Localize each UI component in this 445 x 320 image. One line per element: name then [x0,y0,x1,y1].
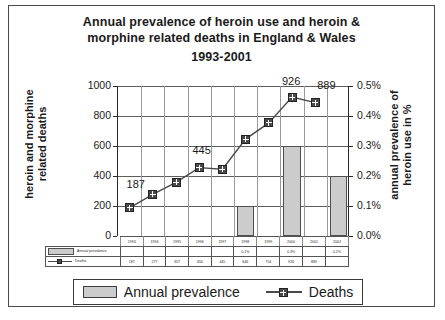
table-cell [257,247,280,257]
table-year-header: 1995 [166,237,189,247]
line-swatch-icon [48,259,72,264]
right-axis-tick-label: 0.1% [357,199,401,211]
line-marker [148,190,157,199]
right-axis-title-line-2: heroin use in % [401,104,413,185]
table-cell: 445 [211,257,234,267]
line-series-deaths [118,86,350,236]
table-row: Deaths187277357456445646754926889 [46,257,349,267]
table-row-label-text: Deaths [75,259,86,263]
bar-swatch-icon [83,286,117,298]
table-cell: 357 [166,257,189,267]
bar-swatch-icon [48,248,74,255]
table-cell: 926 [280,257,303,267]
line-marker [218,165,227,174]
legend-label-deaths: Deaths [309,284,353,300]
legend-item-annual-prevalence: Annual prevalence [83,284,240,300]
chart-title-line-3: 1993-2001 [9,49,434,65]
table-cell: 277 [143,257,166,267]
chart-title: Annual prevalence of heroin use and hero… [9,14,434,65]
line-marker [241,135,250,144]
table-row-years: 1993199419951996199719981999200020012002 [46,237,349,247]
legend-item-deaths: Deaths [266,284,353,300]
right-axis-tick-label: 0.0% [357,229,401,241]
table-cell [121,247,144,257]
table-year-header: 1997 [211,237,234,247]
right-axis-tick-label: 0.2% [357,169,401,181]
left-axis-tick-label: 800 [71,109,111,121]
line-marker [125,203,134,212]
table-cell: 0.3% [280,247,303,257]
chart-title-line-2: morphine related deaths in England & Wal… [87,31,355,45]
right-axis-tick-label: 0.5% [357,79,401,91]
line-marker [195,163,204,172]
table-cell: 889 [303,257,326,267]
table-row: Annual prevalence0.1%0.3%0.2% [46,247,349,257]
line-swatch-icon [266,286,302,298]
table-cell [166,247,189,257]
table-cell: 0.1% [234,247,257,257]
data-label: 889 [317,79,335,91]
left-axis-tick-label: 600 [71,139,111,151]
table-cell [303,247,326,257]
right-axis-tick-label: 0.3% [357,139,401,151]
left-axis-title-line-1: heroin and morphine [23,89,35,198]
left-axis-title-line-2: related deaths [36,107,48,182]
data-label: 187 [127,178,145,190]
table-row-label: Deaths [46,257,121,267]
chart-title-line-1: Annual prevalence of heroin use and hero… [83,15,360,29]
left-axis-tick-label: 400 [71,169,111,181]
table-cell [211,247,234,257]
table-year-header: 2002 [325,237,348,247]
table-corner-cell [46,237,121,247]
left-axis-tick-label: 1000 [71,79,111,91]
data-label: 445 [192,144,210,156]
table-cell: 646 [234,257,257,267]
right-axis-tick-label: 0.4% [357,109,401,121]
chart-frame: Annual prevalence of heroin use and hero… [8,5,435,307]
legend-label-annual-prevalence: Annual prevalence [124,284,240,300]
left-axis-tick-label: 200 [71,199,111,211]
line-marker [288,93,297,102]
data-label: 926 [282,75,300,87]
table-year-header: 2000 [280,237,303,247]
table-row-label-text: Annual prevalence [77,249,107,253]
table-cell: 187 [121,257,144,267]
table-cell [325,257,348,267]
table-year-header: 1996 [188,237,211,247]
table-cell [143,247,166,257]
table-cell: 456 [188,257,211,267]
table-cell [188,247,211,257]
data-table: 1993199419951996199719981999200020012002… [45,236,349,267]
table-cell: 754 [257,257,280,267]
table-year-header: 1998 [234,237,257,247]
left-axis-title: heroin and morphine related deaths [23,70,49,218]
table-cell: 0.2% [325,247,348,257]
table-year-header: 2001 [303,237,326,247]
right-axis-tick-mark [349,236,353,237]
table-row-label: Annual prevalence [46,247,121,257]
line-marker [172,178,181,187]
table-year-header: 1994 [143,237,166,247]
line-marker [311,98,320,107]
table-year-header: 1999 [257,237,280,247]
chart-legend: Annual prevalence Deaths [73,279,363,305]
plot-area: 187445926889 [117,86,349,236]
line-marker [264,118,273,127]
table-year-header: 1993 [121,237,144,247]
